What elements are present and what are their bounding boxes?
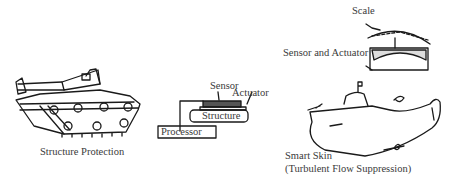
caption-structure-protection: Structure Protection [40, 146, 124, 158]
submarine-drawing [308, 82, 440, 156]
caption-smart-skin: Smart Skin [285, 150, 332, 162]
scale-drawing [366, 24, 430, 70]
label-processor: Processor [161, 126, 202, 138]
caption-turbulent-flow: (Turbulent Flow Suppression) [285, 163, 411, 175]
label-scale: Scale [352, 5, 375, 17]
label-sensor-and-actuator: Sensor and Actuator [283, 47, 368, 59]
track-wheels [50, 103, 132, 130]
label-structure: Structure [202, 110, 241, 122]
tank-drawing [16, 69, 140, 137]
label-actuator: Actuator [232, 87, 269, 99]
